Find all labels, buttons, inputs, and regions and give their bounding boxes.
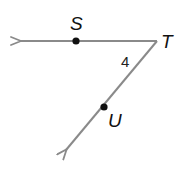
label-s: S — [70, 13, 83, 34]
angle-diagram: S T U 4 — [0, 0, 183, 172]
point-u — [100, 103, 107, 110]
angle-label-4: 4 — [121, 53, 129, 70]
label-u: U — [108, 110, 122, 131]
point-s — [72, 37, 79, 44]
label-t: T — [161, 31, 174, 52]
ray-tu — [66, 41, 157, 150]
